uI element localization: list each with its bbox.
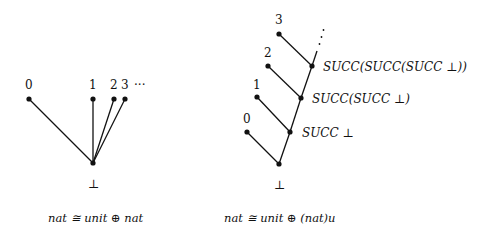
caption-flat: nat ≅ unit ⊕ nat [48,211,144,225]
leaf-edge-1 [257,97,290,132]
leaf-label-0: 0 [243,112,251,126]
label-0: 0 [25,78,33,92]
spine-label-succ1: SUCC ⊥ [302,126,354,140]
node-1 [90,96,95,101]
label-1: 1 [89,78,97,92]
flat-nat-diagram: 0 1 2 3 ··· ⊥ nat ≅ unit ⊕ nat [25,78,145,225]
leaf-label-3: 3 [275,13,283,27]
leaf-label-1: 1 [253,78,261,92]
leaf-edge-3 [279,34,312,66]
ellipsis: ··· [134,78,145,92]
edge-0 [29,99,93,163]
lazy-nat-diagram: 0 1 2 3 ⊥ SUCC ⊥ SUCC(SUCC ⊥) SUCC(SUCC(… [224,13,467,225]
node-2 [111,96,116,101]
label-3: 3 [121,78,129,92]
label-bottom: ⊥ [88,177,99,191]
spine-label-succ3: SUCC(SUCC(SUCC ⊥)) [323,60,467,74]
spine-edge-0 [279,132,290,164]
flat-and-lazy-naturals-diagram: 0 1 2 3 ··· ⊥ nat ≅ unit ⊕ nat [0,0,480,232]
spine-node-succ1 [287,129,292,134]
spine-label-bottom: ⊥ [274,178,285,192]
leaf-node-3 [276,31,281,36]
node-0 [26,96,31,101]
vertical-ellipsis [319,29,325,45]
edge-3 [93,99,125,163]
label-2: 2 [110,78,118,92]
spine-node-bottom [276,161,281,166]
spine-label-succ2: SUCC(SUCC ⊥) [312,92,410,106]
spine-edge-2 [301,66,312,98]
leaf-edge-0 [247,132,279,164]
leaf-edge-2 [268,66,301,98]
leaf-node-0 [244,129,249,134]
spine-edge-1 [290,98,301,132]
node-3 [122,96,127,101]
leaf-label-2: 2 [264,46,272,60]
spine-node-succ2 [298,95,303,100]
leaf-node-2 [265,63,270,68]
edge-2 [93,99,114,163]
node-bottom [90,160,95,165]
spine-node-succ3 [309,63,314,68]
leaf-node-1 [254,94,259,99]
caption-lazy: nat ≅ unit ⊕ (nat)u [224,211,336,225]
